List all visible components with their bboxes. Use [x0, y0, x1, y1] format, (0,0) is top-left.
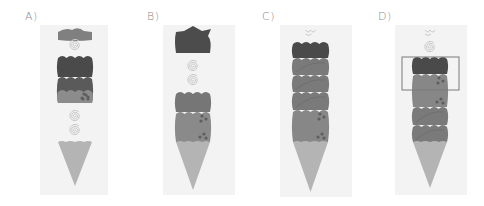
layer-block — [57, 56, 93, 77]
layer-block — [175, 92, 211, 112]
layer-block — [292, 58, 329, 75]
pillar-illustrations — [0, 0, 484, 206]
layer-block — [412, 125, 448, 142]
spot-mark — [435, 100, 438, 103]
spot-mark — [86, 97, 89, 100]
spot-mark — [204, 136, 207, 139]
spot-mark — [80, 96, 83, 99]
spot-mark — [441, 101, 444, 104]
layer-block — [292, 42, 329, 58]
spot-mark — [318, 112, 321, 115]
spot-mark — [316, 135, 319, 138]
spot-mark — [84, 93, 87, 96]
layer-block — [292, 92, 329, 110]
spot-mark — [437, 76, 440, 79]
layer-block — [412, 57, 448, 74]
layer-block — [292, 75, 329, 92]
spot-mark — [317, 117, 320, 120]
spot-mark — [202, 132, 205, 135]
spot-mark — [439, 97, 442, 100]
spot-mark — [320, 132, 323, 135]
spot-mark — [322, 136, 325, 139]
spot-mark — [199, 119, 202, 122]
layer-block — [412, 107, 448, 125]
spot-mark — [198, 135, 201, 138]
spot-mark — [200, 114, 203, 117]
spot-mark — [441, 79, 444, 82]
spot-mark — [322, 115, 325, 118]
spot-mark — [436, 81, 439, 84]
spot-mark — [204, 117, 207, 120]
